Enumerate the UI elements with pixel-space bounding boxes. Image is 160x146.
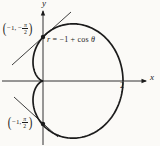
fraction-denominator: 2 [22,122,28,129]
equation-theta: θ [89,35,95,44]
x-axis-arrowhead-icon [142,79,148,83]
point-label-upper: ( −1, − π 2 ) [2,22,33,35]
open-paren: ( [8,116,12,129]
point-upper-coords: −1, − [7,25,22,32]
point-dot-lower [41,122,45,126]
cardioid-figure: r = −1 + cos θ ( −1, − π 2 ) ( −1, π 2 )… [0,0,160,146]
point-dot-upper [41,35,45,39]
equation-label: r = −1 + cos θ [47,36,95,44]
point-lower-coords: −1, [12,119,22,126]
equation-cos: cos [77,35,88,44]
fraction-denominator: 2 [22,28,28,35]
y-axis-arrowhead-icon [41,10,45,16]
pi-over-2-fraction: π 2 [22,116,28,129]
x-tick-2: 2 [120,82,124,90]
y-axis-label: y [42,0,46,8]
close-paren: ) [29,22,33,35]
pi-over-2-fraction: π 2 [22,22,28,35]
open-paren: ( [3,22,7,35]
x-axis-label: x [150,73,154,82]
equation-mid: = −1 + [50,35,77,44]
close-paren: ) [28,116,32,129]
point-label-lower: ( −1, π 2 ) [7,116,33,129]
